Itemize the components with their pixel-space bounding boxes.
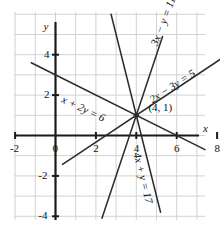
x-tick-label-6: 6 [174,142,180,154]
equation-lines [31,14,220,218]
x-tick-label-neg2: -2 [10,142,19,154]
x-axis-label: x [203,122,208,134]
intersection-marker [134,113,139,118]
intersection-dot [134,113,139,118]
intersection-point-label: (4, 1) [148,101,172,113]
y-axis-label: y [44,20,49,32]
y-tick-label-2: 2 [44,88,50,100]
grid-lines [14,12,205,220]
graph-figure: x y -20246842-2-4x + 2y = 63x − y = 112x… [0,0,220,238]
y-tick-label-neg2: -2 [38,169,47,181]
x-tick-label-0: 0 [52,142,58,154]
axes [14,22,199,220]
y-tick-label-4: 4 [44,48,50,60]
x-tick-label-2: 2 [93,142,99,154]
coordinate-plane-svg [0,0,220,238]
x-tick-label-8: 8 [215,142,221,154]
line-3x-y-11 [102,37,163,219]
y-tick-label-neg4: -4 [38,209,47,221]
